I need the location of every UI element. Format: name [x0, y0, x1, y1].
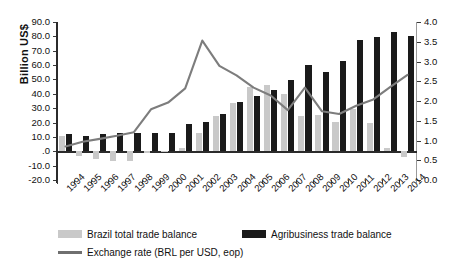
y-axis-tick-label: 60.0 [32, 60, 51, 69]
y-axis-tick-label: -20.0 [28, 175, 50, 184]
y-axis-tick-label: 80.0 [32, 31, 51, 40]
bar-total-trade-balance-1997 [110, 151, 116, 161]
bar-total-trade-balance-1994 [59, 136, 65, 151]
x-axis-tick-mark [296, 180, 297, 184]
legend-label: Exchange rate (BRL per USD, eop) [87, 247, 243, 258]
bar-total-trade-balance-2001 [179, 148, 185, 152]
bar-total-trade-balance-2007 [281, 94, 287, 152]
bar-agribusiness-trade-balance-2004 [237, 102, 243, 151]
x-axis-tick-mark [160, 180, 161, 184]
bar-agribusiness-trade-balance-1999 [152, 133, 158, 152]
y2-axis-tick-mark [417, 62, 421, 63]
y-axis-left: 90.080.070.060.050.040.030.020.010.0.0-1… [0, 0, 57, 269]
bar-total-trade-balance-2000 [161, 151, 167, 152]
y2-axis-tick-mark [417, 141, 421, 142]
bar-total-trade-balance-2006 [264, 85, 270, 152]
bar-total-trade-balance-2003 [213, 116, 219, 152]
x-axis-tick-mark [262, 180, 263, 184]
y2-axis-tick-label: 1.0 [424, 136, 437, 145]
y2-axis-tick-label: 1.5 [424, 116, 437, 125]
y-axis-tick-label: -10.0 [28, 161, 50, 170]
y2-axis-tick-mark [417, 42, 421, 43]
legend-bar-swatch-icon [242, 230, 266, 238]
legend-label: Brazil total trade balance [87, 229, 197, 240]
legend-item-2[interactable]: Agribusiness trade balance [242, 228, 392, 240]
y-axis-tick-label: 40.0 [32, 89, 51, 98]
y2-axis-tick-mark [417, 101, 421, 102]
legend-item-1[interactable]: Brazil total trade balance [58, 228, 197, 240]
bar-agribusiness-trade-balance-2014 [408, 36, 414, 151]
bar-total-trade-balance-2012 [367, 123, 373, 151]
bar-agribusiness-trade-balance-2007 [288, 80, 294, 151]
bar-agribusiness-trade-balance-2010 [340, 61, 346, 152]
x-axis-tick-mark [331, 180, 332, 184]
bar-total-trade-balance-2005 [247, 87, 253, 151]
bar-total-trade-balance-2009 [315, 115, 321, 151]
bar-total-trade-balance-1995 [76, 151, 82, 156]
bar-agribusiness-trade-balance-1996 [100, 134, 106, 151]
y2-axis-line [416, 22, 417, 183]
x-axis-tick-mark [279, 180, 280, 184]
y2-axis-tick-label: 4.0 [424, 17, 437, 26]
x-axis-tick-mark [142, 180, 143, 184]
bar-agribusiness-trade-balance-2003 [220, 114, 226, 151]
x-axis-tick-mark [382, 180, 383, 184]
x-axis-tick-mark [108, 180, 109, 184]
x-axis-tick-mark [365, 180, 366, 184]
bar-agribusiness-trade-balance-2012 [374, 37, 380, 151]
y2-axis-tick-label: 2.0 [424, 96, 437, 105]
legend-item-3[interactable]: Exchange rate (BRL per USD, eop) [58, 246, 243, 258]
y2-axis-tick-label: 3.5 [424, 37, 437, 46]
y2-axis-tick-mark [417, 160, 421, 161]
bar-agribusiness-trade-balance-2009 [323, 72, 329, 151]
legend-label: Agribusiness trade balance [271, 229, 392, 240]
bar-total-trade-balance-2004 [230, 103, 236, 151]
bar-agribusiness-trade-balance-2002 [203, 122, 209, 151]
bar-agribusiness-trade-balance-2000 [169, 133, 175, 152]
x-axis-tick-mark [348, 180, 349, 184]
y-axis-tick-label: .0 [42, 146, 50, 155]
bar-total-trade-balance-1996 [93, 151, 99, 159]
y2-axis-tick-mark [417, 121, 421, 122]
bar-total-trade-balance-2011 [350, 109, 356, 152]
y2-axis-tick-mark [417, 81, 421, 82]
bar-total-trade-balance-2002 [196, 133, 202, 152]
y2-axis-tick-label: 2.5 [424, 76, 437, 85]
x-axis-tick-mark [313, 180, 314, 184]
bar-agribusiness-trade-balance-2011 [357, 40, 363, 151]
bar-agribusiness-trade-balance-2001 [186, 124, 192, 151]
bar-agribusiness-trade-balance-1997 [117, 133, 123, 152]
bar-agribusiness-trade-balance-2013 [391, 32, 397, 151]
y-axis-tick-label: 20.0 [32, 118, 51, 127]
y-axis-tick-label: 50.0 [32, 74, 51, 83]
bar-total-trade-balance-1999 [144, 151, 150, 153]
x-axis-tick-mark [245, 180, 246, 184]
x-axis-tick-mark [228, 180, 229, 184]
x-axis-tick-mark [74, 180, 75, 184]
bar-total-trade-balance-2010 [332, 122, 338, 151]
y-axis-tick-label: 10.0 [32, 132, 51, 141]
bar-agribusiness-trade-balance-1995 [83, 136, 89, 151]
bar-total-trade-balance-1998 [127, 151, 133, 161]
x-axis-tick-mark [177, 180, 178, 184]
bar-agribusiness-trade-balance-1994 [66, 134, 72, 151]
y-axis-right: 4.03.53.02.52.01.51.00.50.0 [416, 0, 474, 269]
legend-bar-swatch-icon [58, 230, 82, 238]
y-axis-tick-label: 30.0 [32, 103, 51, 112]
y-axis-tick-label: 90.0 [32, 17, 51, 26]
bar-agribusiness-trade-balance-2006 [271, 90, 277, 151]
y-axis-line [56, 22, 58, 183]
x-axis-tick-mark [91, 180, 92, 184]
bar-total-trade-balance-2008 [298, 116, 304, 152]
chart-container: Billion US$ 90.080.070.060.050.040.030.0… [0, 0, 474, 269]
x-axis-tick-mark [57, 180, 58, 184]
x-axis-tick-mark [211, 180, 212, 184]
y-axis-tick-label: 70.0 [32, 46, 51, 55]
bar-agribusiness-trade-balance-2005 [254, 96, 260, 151]
y2-axis-tick-label: 3.0 [424, 57, 437, 66]
y2-axis-tick-mark [417, 22, 421, 23]
bar-total-trade-balance-2014 [401, 151, 407, 157]
y2-axis-tick-label: 0.5 [424, 155, 437, 164]
x-axis-tick-mark [399, 180, 400, 184]
x-axis-tick-mark [194, 180, 195, 184]
